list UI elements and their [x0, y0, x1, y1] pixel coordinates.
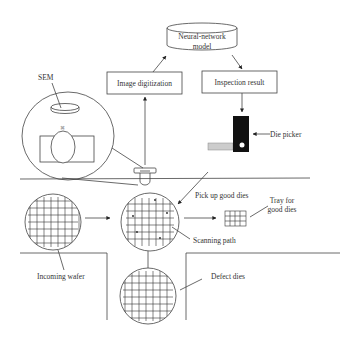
process-diagram: Neural-network model Image digitization …: [0, 0, 354, 340]
image-digitization-label: Image digitization: [117, 79, 172, 88]
scanning-wafer-icon: [121, 193, 179, 251]
pick-up-label: Pick up good dies: [195, 191, 249, 200]
defect-dies-label: Defect dies: [211, 272, 245, 281]
tray-pointer: [250, 206, 268, 217]
tray-label-line2: good dies: [268, 205, 297, 214]
incoming-wafer-label: Incoming wafer: [37, 272, 85, 281]
inspection-result-label: Inspection result: [215, 78, 266, 87]
die-picker-label: Die picker: [270, 130, 302, 139]
sem-label: SEM: [38, 73, 54, 82]
sem-magnified-view: ✖ SEM: [22, 73, 143, 185]
tray-icon: [225, 211, 246, 226]
incoming-wafer-icon: [25, 194, 81, 250]
sem-head-icon: [134, 168, 156, 185]
neural-network-model-node: Neural-network model: [167, 23, 237, 51]
arrow-model-to-result: [232, 55, 242, 69]
defect-dies-pointer: [180, 279, 202, 290]
tray-label-line1: Tray for: [270, 196, 295, 205]
defect-wafer-icon: [120, 268, 176, 324]
neural-network-label: Neural-network: [178, 32, 226, 41]
inspection-result-node: Inspection result: [202, 71, 277, 93]
die-picker-icon: [208, 116, 249, 152]
model-label: model: [193, 42, 212, 51]
scanning-path-label: Scanning path: [193, 236, 236, 245]
svg-text:✖: ✖: [60, 124, 65, 131]
image-digitization-node: Image digitization: [107, 72, 182, 94]
conveyor-right-corner: [186, 253, 340, 320]
arrow-digitization-to-model: [153, 56, 166, 72]
conveyor-left-corner: [20, 253, 107, 320]
